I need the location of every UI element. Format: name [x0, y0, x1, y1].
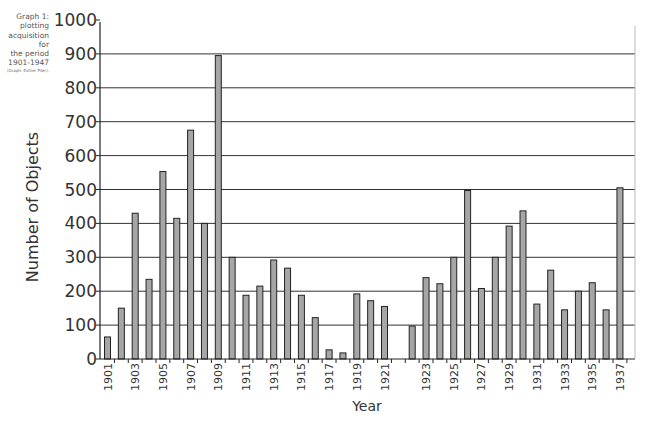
y-tick-label: 600 [65, 146, 97, 166]
x-tick-label: 1911 [240, 363, 253, 391]
bar-1906 [174, 218, 180, 359]
x-tick-label: 1933 [559, 363, 572, 391]
x-tick-label: 1903 [129, 363, 142, 391]
bar-1927 [478, 288, 484, 359]
bar-1931 [534, 304, 540, 359]
bar-1907 [188, 130, 194, 359]
x-tick-label: 1913 [268, 363, 281, 391]
bar-1909 [215, 56, 221, 359]
bar-1936 [603, 310, 609, 359]
bar-1915 [298, 295, 304, 359]
x-tick-label: 1937 [614, 363, 627, 391]
y-tick-label: 500 [65, 180, 97, 200]
x-axis-ticks: 1901190319051907190919111913191519171919… [102, 359, 627, 391]
bars [105, 56, 623, 359]
bar-1901 [105, 337, 111, 359]
bar-1928 [492, 257, 498, 359]
bar-1923 [423, 278, 429, 359]
y-axis-ticks: 01002003004005006007008009001000 [54, 10, 100, 369]
bar-1911 [243, 295, 249, 359]
x-tick-label: 1935 [586, 363, 599, 391]
bar-1935 [589, 283, 595, 359]
y-tick-label: 900 [65, 44, 97, 64]
x-tick-label: 1931 [531, 363, 544, 391]
y-tick-label: 200 [65, 281, 97, 301]
y-axis-title: Number of Objects [23, 132, 42, 282]
x-tick-label: 1921 [379, 363, 392, 391]
bar-1933 [562, 310, 568, 359]
bar-1908 [201, 223, 207, 359]
x-tick-label: 1917 [323, 363, 336, 391]
y-tick-label: 300 [65, 247, 97, 267]
x-tick-label: 1909 [212, 363, 225, 391]
bar-1919 [354, 294, 360, 359]
bar-1922 [409, 326, 415, 359]
bar-1921 [382, 306, 388, 359]
bar-1920 [368, 301, 374, 359]
x-tick-label: 1919 [351, 363, 364, 391]
bar-1913 [271, 260, 277, 359]
x-tick-label: 1923 [420, 363, 433, 391]
x-tick-label: 1927 [475, 363, 488, 391]
bar-1910 [229, 257, 235, 359]
bar-1932 [548, 270, 554, 359]
x-axis-title: Year [351, 398, 382, 414]
bar-1916 [312, 318, 318, 359]
bar-1912 [257, 286, 263, 359]
y-tick-label: 1000 [54, 10, 97, 30]
y-tick-label: 700 [65, 112, 97, 132]
bar-1934 [575, 291, 581, 359]
bar-1902 [118, 308, 124, 359]
x-tick-label: 1929 [503, 363, 516, 391]
x-tick-label: 1905 [157, 363, 170, 391]
bar-1903 [132, 213, 138, 359]
bar-1929 [506, 226, 512, 359]
x-tick-label: 1901 [102, 363, 115, 391]
bar-1930 [520, 211, 526, 359]
bar-1904 [146, 279, 152, 359]
bar-1905 [160, 172, 166, 359]
y-tick-label: 400 [65, 213, 97, 233]
x-tick-label: 1915 [295, 363, 308, 391]
x-tick-label: 1925 [448, 363, 461, 391]
x-tick-label: 1907 [185, 363, 198, 391]
bar-1918 [340, 353, 346, 359]
bar-1926 [465, 191, 471, 359]
y-tick-label: 0 [86, 349, 97, 369]
bar-1925 [451, 257, 457, 359]
bar-1917 [326, 350, 332, 359]
y-tick-label: 100 [65, 315, 97, 335]
bar-1937 [617, 188, 623, 359]
y-tick-label: 800 [65, 78, 97, 98]
bar-1924 [437, 284, 443, 359]
bar-chart: 01002003004005006007008009001000 1901190… [0, 0, 652, 425]
bar-1914 [285, 268, 291, 359]
